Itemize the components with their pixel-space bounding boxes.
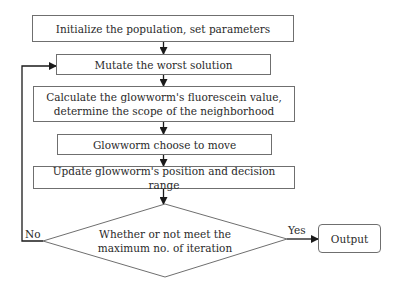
step-mutate-label: Mutate the worst solution [94,58,232,72]
step-mutate: Mutate the worst solution [56,54,271,75]
step-calculate-label: Calculate the glowworm's fluorescein val… [38,90,290,118]
step-move: Glowworm choose to move [57,134,272,155]
step-update-label: Update glowworm's position and decision … [38,164,290,192]
step-initialize: Initialize the population, set parameter… [32,15,294,42]
branch-yes-label: Yes [288,224,306,236]
branch-no-label: No [25,228,41,240]
output-label: Output [331,232,368,246]
step-initialize-label: Initialize the population, set parameter… [56,22,270,36]
output-box: Output [318,224,381,253]
step-move-label: Glowworm choose to move [93,138,236,152]
step-update: Update glowworm's position and decision … [33,166,295,189]
step-calculate: Calculate the glowworm's fluorescein val… [33,86,295,122]
decision-label: Whether or not meet the maximum no. of i… [90,227,240,255]
